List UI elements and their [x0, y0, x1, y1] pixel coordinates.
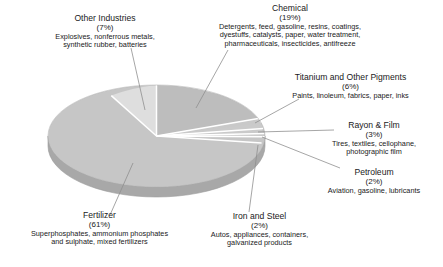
pie-top-face [48, 85, 265, 187]
label-petroleum-description: Aviation, gasoline, lubricants [305, 187, 443, 196]
leader-titanium [255, 99, 299, 123]
label-chemical-description: Detergents, feed, gasoline, resins, coat… [181, 23, 399, 49]
label-rayon-film-description: Tires, textiles, cellophane, photographi… [305, 140, 443, 157]
label-iron-and-steel-description: Autos, appliances, containers, galvanize… [186, 231, 333, 248]
label-fertilizer-description: Superphosphates, ammonium phosphates and… [2, 230, 197, 247]
label-titanium-pigments: Titanium and Other Pigments (6%) Paints,… [258, 72, 443, 100]
label-fertilizer: Fertilizer (61%) Superphosphates, ammoni… [2, 210, 197, 247]
label-rayon-film: Rayon & Film (3%) Tires, textiles, cello… [305, 120, 443, 157]
label-petroleum: Petroleum (2%) Aviation, gasoline, lubri… [305, 167, 443, 195]
pie-chart-figure: Other Industries (7%) Explosives, nonfer… [0, 0, 443, 267]
label-chemical-name: Chemical [181, 3, 399, 13]
label-other-industries: Other Industries (7%) Explosives, nonfer… [25, 13, 185, 50]
label-rayon-film-name: Rayon & Film [305, 120, 443, 130]
label-iron-and-steel: Iron and Steel (2%) Autos, appliances, c… [186, 211, 333, 248]
label-petroleum-name: Petroleum [305, 167, 443, 177]
label-iron-and-steel-name: Iron and Steel [186, 211, 333, 221]
label-titanium-pigments-description: Paints, linoleum, fabrics, paper, inks [258, 92, 443, 101]
label-other-industries-description: Explosives, nonferrous metals, synthetic… [25, 33, 185, 50]
label-chemical: Chemical (19%) Detergents, feed, gasolin… [181, 3, 399, 48]
label-titanium-pigments-name: Titanium and Other Pigments [258, 72, 443, 82]
label-fertilizer-name: Fertilizer [2, 210, 197, 220]
label-other-industries-name: Other Industries [25, 13, 185, 23]
